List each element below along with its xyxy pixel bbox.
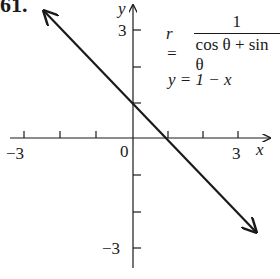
polar-denominator: cos θ + sin θ [194,33,280,75]
polar-numerator: 1 [231,12,244,33]
cartesian-equation: y = 1 − x [168,71,232,88]
y-tick-label-neg3: −3 [102,240,120,257]
x-tick-label-3: 3 [232,145,241,162]
polar-equation: r = 1 cos θ + sin θ [166,12,280,75]
x-axis-label: x [256,141,264,158]
polar-lhs: r = [166,24,188,64]
y-axis-label: y [118,0,126,17]
x-ticks [24,131,238,138]
origin-label: 0 [120,143,129,160]
y-tick-label-3: 3 [118,22,127,39]
y-ticks [133,30,141,248]
x-tick-label-neg3: −3 [6,145,24,162]
